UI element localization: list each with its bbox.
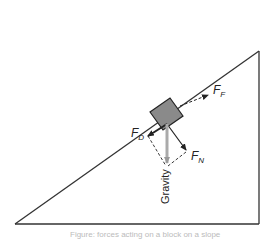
drag-arrow xyxy=(148,124,167,136)
normal-label: FN xyxy=(191,149,204,165)
drag-label: FD xyxy=(131,126,144,142)
gravity-label: Gravity xyxy=(159,169,171,204)
figure-caption: Figure: forces acting on a block on a sl… xyxy=(70,230,270,239)
inclined-plane-diagram: FF FD FN Gravity xyxy=(0,0,272,239)
normal-arrow xyxy=(167,124,186,150)
friction-label: FF xyxy=(213,83,226,99)
